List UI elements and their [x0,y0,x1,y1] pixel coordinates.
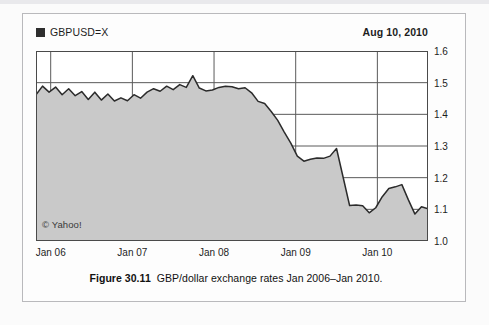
figure-caption-text: GBP/dollar exchange rates Jan 2006–Jan 2… [157,272,383,284]
exchange-rate-area-chart [36,51,428,241]
chart-header: GBPUSD=X Aug 10, 2010 [36,26,428,44]
x-axis-tick-label: Jan 08 [199,247,229,258]
x-axis-tick-label: Jan 07 [117,247,147,258]
y-axis-tick-label: 1.0 [434,236,448,247]
legend-swatch-icon [36,28,45,37]
scan-artifact-band [0,0,489,4]
y-axis-tick-label: 1.3 [434,141,448,152]
chart-plot-area: © Yahoo! [36,51,428,241]
yahoo-watermark: © Yahoo! [42,219,82,230]
y-axis-tick-label: 1.4 [434,109,448,120]
figure-caption-number: Figure 30.11 [89,272,150,284]
x-axis-tick-label: Jan 10 [362,247,392,258]
as-of-date-label: Aug 10, 2010 [363,26,428,38]
chart-legend: GBPUSD=X [36,26,108,38]
y-axis-tick-label: 1.5 [434,77,448,88]
x-axis-tick-label: Jan 06 [36,247,66,258]
figure-caption: Figure 30.11 GBP/dollar exchange rates J… [36,272,436,284]
y-axis-tick-label: 1.1 [434,204,448,215]
figure-page: GBPUSD=X Aug 10, 2010 © Yahoo! 1.61.51.4… [0,0,489,325]
y-axis-tick-label: 1.6 [434,46,448,57]
legend-series-label: GBPUSD=X [50,26,108,38]
y-axis-tick-label: 1.2 [434,172,448,183]
x-axis-tick-label: Jan 09 [281,247,311,258]
